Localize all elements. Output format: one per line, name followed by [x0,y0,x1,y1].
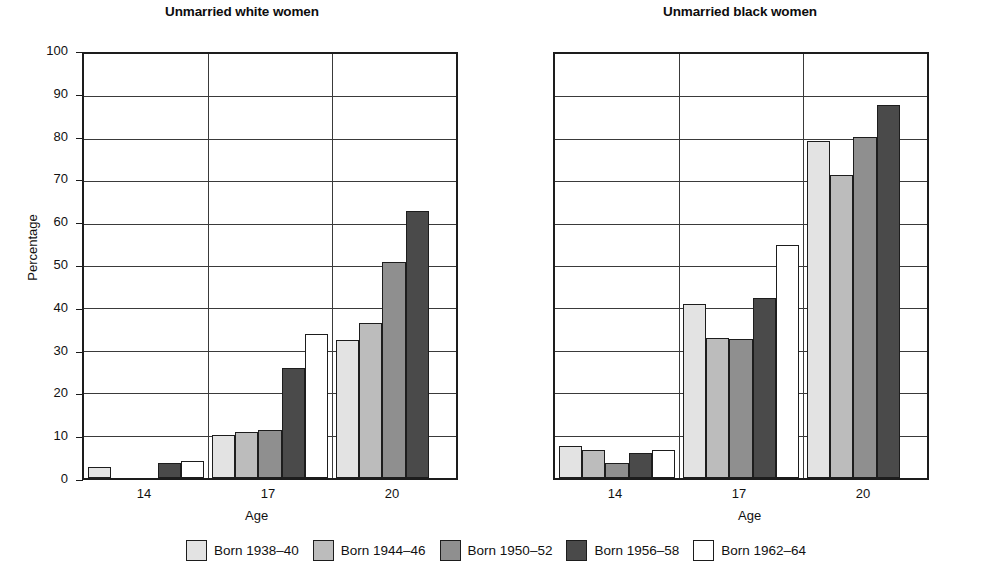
bar [652,450,675,478]
gridline-vertical [332,54,333,478]
legend-item[interactable]: Born 1938–40 [186,540,299,561]
legend-item[interactable]: Born 1962–64 [693,540,806,561]
y-tick-mark [76,480,83,481]
legend-label: Born 1938–40 [214,543,299,558]
panel-title-white: Unmarried white women [165,4,319,19]
figure-container: Unmarried white women Unmarried black wo… [0,0,992,580]
y-tick-label: 0 [34,472,68,485]
x-tick-label: 14 [595,486,635,501]
legend-swatch-icon [186,540,207,561]
plot-area-black-women [553,52,929,480]
bar [776,245,799,478]
bar [336,340,359,478]
bar [406,211,429,478]
bar [877,105,900,478]
legend-swatch-icon [566,540,587,561]
x-tick-label: 14 [124,486,164,501]
gridline-horizontal [84,224,456,225]
bar [382,262,405,478]
x-tick-label: 17 [248,486,288,501]
bar [305,334,328,478]
bar [212,435,235,478]
x-axis-label-white: Age [245,508,268,523]
legend-item[interactable]: Born 1944–46 [313,540,426,561]
legend-label: Born 1962–64 [721,543,806,558]
gridline-vertical [208,54,209,478]
y-tick-label: 60 [34,215,68,228]
y-tick-label: 40 [34,301,68,314]
bar [359,323,382,478]
legend-label: Born 1950–52 [468,543,553,558]
x-tick-label: 20 [372,486,412,501]
y-tick-label: 80 [34,130,68,143]
bar [853,137,876,478]
bar [683,304,706,478]
bar [753,298,776,478]
y-tick-label: 20 [34,386,68,399]
panel-title-black: Unmarried black women [663,4,817,19]
bar [706,338,729,478]
bar [559,446,582,478]
y-tick-label: 30 [34,344,68,357]
legend-swatch-icon [313,540,334,561]
gridline-vertical [803,54,804,478]
bar [158,463,181,478]
y-tick-label: 100 [34,44,68,57]
y-tick-label: 50 [34,258,68,271]
legend-item[interactable]: Born 1956–58 [566,540,679,561]
bar [88,467,111,478]
y-tick-label: 70 [34,172,68,185]
bar [258,430,281,478]
bar [605,463,628,478]
bar [282,368,305,478]
plot-area-white-women [82,52,458,480]
bar [582,450,605,478]
bar [629,453,652,478]
legend-item[interactable]: Born 1950–52 [440,540,553,561]
x-axis-label-black: Age [738,508,761,523]
bar [807,141,830,478]
bar [830,175,853,478]
y-axis-label: Percentage [25,188,40,308]
bar [235,432,258,478]
gridline-vertical [679,54,680,478]
gridline-horizontal [84,181,456,182]
y-tick-label: 90 [34,87,68,100]
bar [181,461,204,478]
chart-legend: Born 1938–40Born 1944–46Born 1950–52Born… [0,540,992,561]
gridline-horizontal [555,96,927,97]
legend-label: Born 1944–46 [341,543,426,558]
legend-swatch-icon [440,540,461,561]
legend-label: Born 1956–58 [594,543,679,558]
gridline-horizontal [84,96,456,97]
x-tick-label: 20 [843,486,883,501]
y-tick-label: 10 [34,429,68,442]
bar [729,339,752,478]
legend-swatch-icon [693,540,714,561]
x-tick-label: 17 [719,486,759,501]
gridline-horizontal [84,139,456,140]
